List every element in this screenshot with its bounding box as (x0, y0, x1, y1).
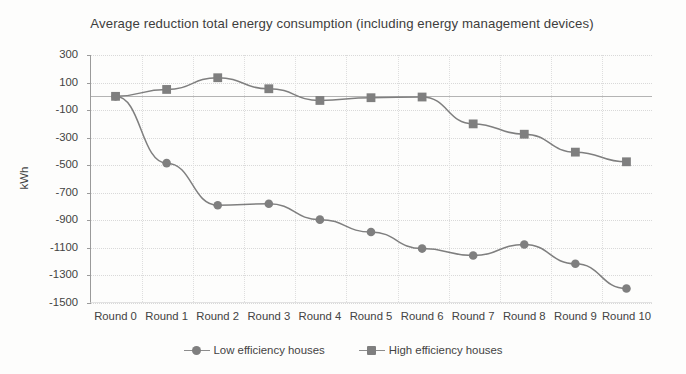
legend-label: High efficiency houses (389, 344, 503, 356)
legend-entry[interactable]: Low efficiency houses (184, 344, 325, 356)
legend-entry[interactable]: High efficiency houses (359, 344, 503, 356)
gridline-horizontal (91, 110, 652, 111)
y-axis-tick-label: 300 (26, 48, 78, 60)
y-axis-tick-mark (87, 248, 91, 249)
gridline-vertical (449, 55, 450, 302)
legend-label: Low efficiency houses (214, 344, 325, 356)
y-axis-tick-label: -500 (26, 158, 78, 170)
y-axis-tick-label: -1100 (26, 241, 78, 253)
gridline-vertical (500, 55, 501, 302)
y-axis-tick-mark (87, 138, 91, 139)
plot-area (90, 55, 652, 303)
chart-title: Average reduction total energy consumpti… (78, 14, 606, 33)
x-axis-tick-label: Round 10 (596, 310, 656, 322)
gridline-horizontal (91, 220, 652, 221)
gridline-horizontal (91, 193, 652, 194)
legend-circle-marker-icon (192, 346, 201, 355)
y-axis-tick-mark (87, 303, 91, 304)
y-axis-tick-mark (87, 193, 91, 194)
gridline-horizontal (91, 248, 652, 249)
gridline-vertical (295, 55, 296, 302)
legend-line-swatch (359, 345, 385, 355)
y-axis-tick-label: -1300 (26, 268, 78, 280)
y-axis-tick-label: -700 (26, 186, 78, 198)
gridline-horizontal (91, 275, 652, 276)
y-axis-tick-mark (87, 83, 91, 84)
gridline-vertical (244, 55, 245, 302)
y-axis-tick-label: -300 (26, 131, 78, 143)
gridline-horizontal (91, 138, 652, 139)
y-axis-tick-mark (87, 55, 91, 56)
gridline-horizontal (91, 83, 652, 84)
gridline-horizontal (91, 55, 652, 56)
gridline-vertical (193, 55, 194, 302)
gridline-horizontal (91, 165, 652, 166)
y-axis-tick-label: -900 (26, 213, 78, 225)
chart-legend: Low efficiency housesHigh efficiency hou… (0, 344, 686, 356)
y-axis-tick-label: -1500 (26, 296, 78, 308)
y-axis-tick-mark (87, 220, 91, 221)
y-axis-tick-mark (87, 275, 91, 276)
gridline-vertical (398, 55, 399, 302)
y-axis-tick-label: -100 (26, 103, 78, 115)
gridline-horizontal (91, 303, 652, 304)
legend-square-marker-icon (367, 346, 376, 355)
gridline-vertical (346, 55, 347, 302)
y-axis-title: kWh (18, 148, 30, 208)
y-axis-tick-mark (87, 165, 91, 166)
y-axis-tick-label: 100 (26, 76, 78, 88)
gridline-vertical (551, 55, 552, 302)
zero-baseline (91, 96, 652, 97)
legend-line-swatch (184, 345, 210, 355)
y-axis-tick-mark (87, 110, 91, 111)
gridline-vertical (602, 55, 603, 302)
gridline-vertical (142, 55, 143, 302)
chart-container: Average reduction total energy consumpti… (0, 0, 686, 374)
